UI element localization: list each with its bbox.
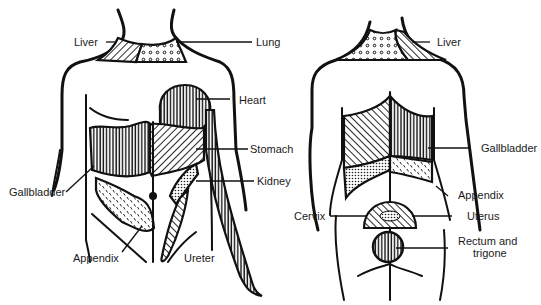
front-liver-area	[98, 38, 142, 62]
front-torso-left	[86, 95, 90, 262]
label-back-liver: Liver	[437, 36, 461, 48]
label-rectum-line2: trigone	[473, 247, 507, 259]
label-ureter: Ureter	[184, 252, 215, 264]
label-back-gallbladder: Gallbladder	[481, 142, 538, 154]
label-front-gallbladder: Gallbladder	[9, 186, 66, 198]
front-appendix-area	[96, 178, 154, 231]
label-front-liver: Liver	[74, 36, 98, 48]
label-front-appendix: Appendix	[73, 252, 119, 264]
back-view	[310, 18, 480, 300]
front-chest-curve	[90, 108, 128, 120]
front-gallbladder-area	[90, 122, 150, 177]
referred-pain-diagram: Liver Lung Heart Stomach Kidney Gallblad…	[0, 0, 541, 305]
back-rectum-area	[373, 232, 403, 262]
label-heart: Heart	[239, 94, 266, 106]
label-cervix: Cervix	[294, 210, 326, 222]
navel-marker	[149, 192, 157, 200]
label-kidney: Kidney	[257, 175, 291, 187]
label-rectum-line1: Rectum and	[458, 235, 517, 247]
back-stomach-area	[344, 96, 390, 168]
back-torso-right	[434, 108, 450, 220]
back-torso-left	[330, 108, 342, 215]
label-uterus: Uterus	[467, 210, 500, 222]
label-back-appendix: Appendix	[458, 189, 504, 201]
label-stomach: Stomach	[250, 143, 293, 155]
back-cervix-area	[380, 211, 400, 221]
front-ureter-band	[206, 110, 262, 296]
back-gallbladder-area	[390, 96, 432, 160]
label-lung: Lung	[256, 36, 280, 48]
